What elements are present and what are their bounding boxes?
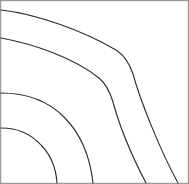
- contour-plot: [0, 0, 189, 184]
- figure-panel: [0, 0, 189, 184]
- panel-border: [1, 1, 189, 184]
